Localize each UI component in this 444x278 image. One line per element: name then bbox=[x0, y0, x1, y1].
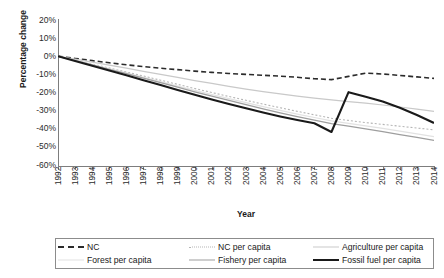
x-tick-label: 1998 bbox=[155, 167, 166, 211]
legend-line-swatch bbox=[189, 255, 215, 265]
legend-item[interactable]: Forest per capita bbox=[56, 254, 189, 267]
x-tick-label: 1994 bbox=[87, 167, 98, 211]
x-axis-tick-labels: 1992199319941995199619971998199920002001… bbox=[58, 167, 434, 209]
y-tick-label: 20% bbox=[14, 16, 56, 25]
x-tick-label: 1995 bbox=[104, 167, 115, 211]
x-tick-label: 2011 bbox=[377, 167, 388, 211]
legend-line-swatch bbox=[58, 255, 84, 265]
series-canvas bbox=[58, 20, 434, 165]
legend-label: NC bbox=[87, 242, 99, 252]
legend-item[interactable]: Fossil fuel per capita bbox=[313, 254, 433, 267]
legend-label: Fishery per capita bbox=[218, 255, 286, 265]
legend-item[interactable]: Fishery per capita bbox=[189, 254, 313, 267]
x-tick-label: 2009 bbox=[343, 167, 354, 211]
legend-label: Agriculture per capita bbox=[342, 242, 423, 252]
chart-legend: NCNC per capitaAgriculture per capitaFor… bbox=[55, 238, 434, 269]
series-line bbox=[58, 56, 434, 79]
legend-row: Forest per capitaFishery per capitaFossi… bbox=[56, 254, 433, 267]
x-tick-label: 2008 bbox=[326, 167, 337, 211]
x-tick-label: 1992 bbox=[53, 167, 64, 211]
y-tick-label: -40% bbox=[14, 124, 56, 133]
x-tick-label: 2002 bbox=[223, 167, 234, 211]
plot-area bbox=[58, 20, 434, 165]
x-tick-label: 2007 bbox=[309, 167, 320, 211]
y-tick-label: -10% bbox=[14, 70, 56, 79]
x-tick-label: 2004 bbox=[258, 167, 269, 211]
legend-line-swatch bbox=[58, 242, 84, 252]
y-tick-label: -50% bbox=[14, 142, 56, 151]
x-tick-label: 1996 bbox=[121, 167, 132, 211]
series-line bbox=[58, 56, 434, 132]
series-line bbox=[58, 56, 434, 130]
y-tick-label: -60% bbox=[14, 161, 56, 170]
x-tick-label: 1999 bbox=[172, 167, 183, 211]
x-tick-label: 2005 bbox=[275, 167, 286, 211]
x-tick-label: 2006 bbox=[292, 167, 303, 211]
y-axis-tick-labels: 20%10%0%-10%-20%-30%-40%-50%-60% bbox=[14, 0, 56, 172]
legend-label: Forest per capita bbox=[87, 255, 151, 265]
legend-line-swatch bbox=[313, 255, 339, 265]
y-tick-label: 10% bbox=[14, 34, 56, 43]
x-tick-label: 2013 bbox=[411, 167, 422, 211]
x-tick-label: 2000 bbox=[189, 167, 200, 211]
legend-row: NCNC per capitaAgriculture per capita bbox=[56, 241, 433, 254]
y-tick-label: -30% bbox=[14, 106, 56, 115]
x-tick-label: 2014 bbox=[429, 167, 440, 211]
x-tick-label: 2010 bbox=[360, 167, 371, 211]
legend-label: Fossil fuel per capita bbox=[342, 255, 421, 265]
x-tick-label: 2012 bbox=[394, 167, 405, 211]
legend-line-swatch bbox=[313, 242, 339, 252]
x-tick-label: 1997 bbox=[138, 167, 149, 211]
y-tick-label: -20% bbox=[14, 88, 56, 97]
legend-item[interactable]: NC per capita bbox=[189, 241, 313, 254]
legend-item[interactable]: NC bbox=[56, 241, 189, 254]
legend-item[interactable]: Agriculture per capita bbox=[313, 241, 433, 254]
series-line bbox=[58, 56, 434, 136]
line-chart: Percentage change 20%10%0%-10%-20%-30%-4… bbox=[0, 0, 444, 278]
y-tick-label: 0% bbox=[14, 52, 56, 61]
x-axis-title: Year bbox=[58, 209, 434, 219]
x-tick-label: 2001 bbox=[206, 167, 217, 211]
x-tick-label: 2003 bbox=[241, 167, 252, 211]
legend-line-swatch bbox=[189, 242, 215, 252]
legend-label: NC per capita bbox=[218, 242, 271, 252]
plot-region: Percentage change 20%10%0%-10%-20%-30%-4… bbox=[0, 0, 444, 232]
x-tick-label: 1993 bbox=[70, 167, 81, 211]
